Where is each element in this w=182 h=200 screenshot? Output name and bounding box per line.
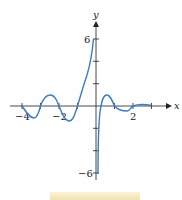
y-axis-label: y <box>92 9 99 20</box>
x-axis-label: x <box>174 100 180 111</box>
function-plot: −4 −2 2 6 −6 x y <box>0 0 182 200</box>
curve-left-branch <box>22 39 94 121</box>
caption-bar <box>50 192 140 200</box>
curve-right-branch <box>98 95 152 174</box>
y-axis-arrow-icon <box>93 21 99 27</box>
x-axis-arrow-icon <box>166 103 172 109</box>
x-tick-label-2: 2 <box>130 111 136 122</box>
y-tick-label-6: 6 <box>84 34 90 45</box>
y-tick-label-neg6: −6 <box>78 168 93 179</box>
